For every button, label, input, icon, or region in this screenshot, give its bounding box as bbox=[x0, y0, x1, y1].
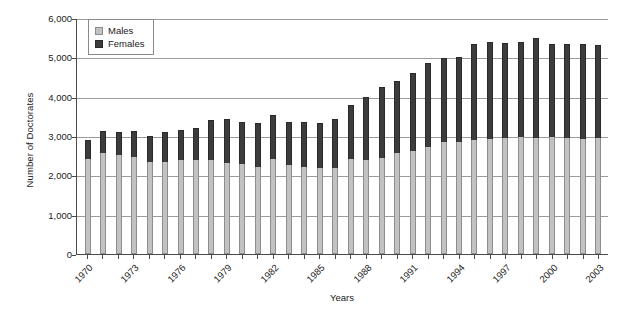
bar-column[interactable] bbox=[529, 19, 544, 254]
bar-segment-males[interactable] bbox=[131, 157, 137, 254]
bar-segment-females[interactable] bbox=[348, 105, 354, 159]
bar-segment-males[interactable] bbox=[208, 160, 214, 254]
bar-segment-females[interactable] bbox=[286, 122, 292, 165]
bar-segment-males[interactable] bbox=[301, 167, 307, 254]
bar-segment-females[interactable] bbox=[580, 44, 586, 140]
bar-segment-males[interactable] bbox=[533, 138, 539, 254]
bar-segment-females[interactable] bbox=[533, 38, 539, 138]
bar-column[interactable] bbox=[312, 19, 327, 254]
bar-column[interactable] bbox=[328, 19, 343, 254]
bar-segment-females[interactable] bbox=[317, 123, 323, 169]
stacked-bar[interactable] bbox=[332, 119, 338, 254]
stacked-bar[interactable] bbox=[441, 58, 447, 254]
bar-segment-females[interactable] bbox=[193, 128, 199, 161]
bar-segment-males[interactable] bbox=[348, 159, 354, 254]
bar-segment-females[interactable] bbox=[441, 58, 447, 141]
bar-segment-females[interactable] bbox=[208, 120, 214, 160]
stacked-bar[interactable] bbox=[580, 44, 586, 254]
bar-column[interactable] bbox=[250, 19, 265, 254]
bar-segment-males[interactable] bbox=[224, 163, 230, 254]
bar-column[interactable] bbox=[297, 19, 312, 254]
stacked-bar[interactable] bbox=[178, 130, 184, 254]
stacked-bar[interactable] bbox=[502, 43, 508, 254]
bar-segment-females[interactable] bbox=[471, 44, 477, 140]
bar-column[interactable] bbox=[188, 19, 203, 254]
bar-column[interactable] bbox=[482, 19, 497, 254]
bar-segment-females[interactable] bbox=[239, 122, 245, 164]
stacked-bar[interactable] bbox=[239, 122, 245, 254]
stacked-bar[interactable] bbox=[131, 131, 137, 254]
bar-segment-males[interactable] bbox=[193, 160, 199, 254]
stacked-bar[interactable] bbox=[456, 57, 462, 254]
bar-segment-females[interactable] bbox=[487, 42, 493, 139]
stacked-bar[interactable] bbox=[348, 105, 354, 254]
bar-column[interactable] bbox=[358, 19, 373, 254]
bar-segment-females[interactable] bbox=[549, 44, 555, 137]
bar-segment-males[interactable] bbox=[363, 160, 369, 254]
bar-column[interactable] bbox=[436, 19, 451, 254]
bar-segment-females[interactable] bbox=[301, 122, 307, 167]
bar-column[interactable] bbox=[374, 19, 389, 254]
stacked-bar[interactable] bbox=[116, 132, 122, 254]
stacked-bar[interactable] bbox=[425, 63, 431, 254]
bar-column[interactable] bbox=[544, 19, 559, 254]
stacked-bar[interactable] bbox=[162, 132, 168, 254]
stacked-bar[interactable] bbox=[270, 115, 276, 254]
bar-column[interactable] bbox=[467, 19, 482, 254]
bar-segment-males[interactable] bbox=[471, 140, 477, 254]
bar-segment-males[interactable] bbox=[518, 137, 524, 254]
bar-segment-males[interactable] bbox=[178, 160, 184, 254]
bar-segment-males[interactable] bbox=[100, 153, 106, 254]
bar-segment-females[interactable] bbox=[100, 131, 106, 152]
bar-segment-males[interactable] bbox=[116, 155, 122, 255]
bar-segment-females[interactable] bbox=[502, 43, 508, 138]
bar-segment-males[interactable] bbox=[487, 139, 493, 254]
stacked-bar[interactable] bbox=[193, 128, 199, 254]
bar-segment-females[interactable] bbox=[425, 63, 431, 147]
bar-segment-males[interactable] bbox=[394, 153, 400, 254]
bar-segment-males[interactable] bbox=[456, 142, 462, 254]
bar-segment-males[interactable] bbox=[410, 151, 416, 254]
bar-segment-females[interactable] bbox=[270, 115, 276, 159]
bar-column[interactable] bbox=[590, 19, 605, 254]
stacked-bar[interactable] bbox=[208, 120, 214, 254]
bar-column[interactable] bbox=[281, 19, 296, 254]
bar-segment-females[interactable] bbox=[162, 132, 168, 162]
bar-segment-females[interactable] bbox=[332, 119, 338, 169]
bar-column[interactable] bbox=[575, 19, 590, 254]
stacked-bar[interactable] bbox=[85, 140, 91, 254]
bar-column[interactable] bbox=[498, 19, 513, 254]
bar-segment-males[interactable] bbox=[379, 158, 385, 254]
bar-column[interactable] bbox=[204, 19, 219, 254]
bar-segment-males[interactable] bbox=[425, 147, 431, 254]
bar-segment-males[interactable] bbox=[255, 167, 261, 254]
stacked-bar[interactable] bbox=[487, 42, 493, 254]
stacked-bar[interactable] bbox=[301, 122, 307, 254]
stacked-bar[interactable] bbox=[379, 87, 385, 254]
bar-segment-males[interactable] bbox=[564, 138, 570, 254]
bar-segment-males[interactable] bbox=[441, 142, 447, 254]
bar-segment-females[interactable] bbox=[147, 136, 153, 163]
bar-segment-females[interactable] bbox=[564, 44, 570, 137]
stacked-bar[interactable] bbox=[100, 131, 106, 254]
stacked-bar[interactable] bbox=[224, 119, 230, 254]
stacked-bar[interactable] bbox=[394, 81, 400, 254]
bar-segment-males[interactable] bbox=[239, 164, 245, 254]
stacked-bar[interactable] bbox=[286, 122, 292, 254]
bar-segment-males[interactable] bbox=[595, 138, 601, 254]
bar-column[interactable] bbox=[560, 19, 575, 254]
bar-column[interactable] bbox=[451, 19, 466, 254]
bar-segment-males[interactable] bbox=[270, 159, 276, 254]
bar-segment-males[interactable] bbox=[502, 138, 508, 254]
stacked-bar[interactable] bbox=[317, 123, 323, 254]
bar-column[interactable] bbox=[405, 19, 420, 254]
bar-column[interactable] bbox=[219, 19, 234, 254]
bar-segment-females[interactable] bbox=[85, 140, 91, 158]
bar-segment-females[interactable] bbox=[224, 119, 230, 162]
bar-column[interactable] bbox=[420, 19, 435, 254]
stacked-bar[interactable] bbox=[533, 38, 539, 254]
stacked-bar[interactable] bbox=[549, 44, 555, 254]
bar-segment-males[interactable] bbox=[549, 137, 555, 254]
stacked-bar[interactable] bbox=[471, 44, 477, 254]
bar-segment-females[interactable] bbox=[394, 81, 400, 153]
